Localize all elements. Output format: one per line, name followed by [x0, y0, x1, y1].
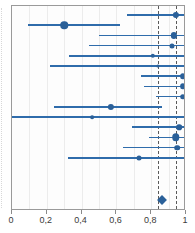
confidence-interval-line [28, 24, 120, 26]
axis-tick [11, 210, 12, 214]
plot-area [11, 5, 185, 210]
point-estimate-marker [170, 43, 175, 48]
confidence-interval-line [69, 55, 185, 57]
x-axis: 00,20,40,60,81 [11, 210, 185, 233]
point-estimate-marker [108, 104, 114, 110]
axis-tick-label: 0,2 [40, 215, 53, 226]
axis-tick-label: 1 [182, 215, 187, 226]
axis-tick-label: 0,4 [74, 215, 87, 226]
point-estimate-marker [180, 73, 185, 79]
axis-tick-label: 0 [8, 215, 13, 226]
gridline [47, 6, 48, 209]
axis-tick [46, 210, 47, 214]
point-estimate-marker [180, 94, 185, 100]
axis-tick [115, 210, 116, 214]
point-estimate-marker [90, 115, 94, 119]
confidence-interval-line [141, 75, 185, 77]
point-estimate-marker [180, 84, 185, 90]
confidence-interval-line [50, 65, 185, 67]
point-estimate-marker [174, 145, 180, 151]
forest-plot-figure: 00,20,40,60,81 [0, 0, 195, 233]
confidence-interval-line [149, 137, 185, 139]
point-estimate-marker [172, 134, 180, 142]
gridline [29, 6, 30, 209]
axis-tick-label: 0,6 [109, 215, 122, 226]
gridline [169, 6, 170, 209]
point-estimate-marker [172, 12, 178, 18]
point-estimate-marker [157, 64, 160, 67]
left-edge-decoration [1, 8, 3, 208]
point-estimate-marker [60, 21, 68, 29]
point-estimate-marker [137, 155, 142, 160]
axis-tick-label: 0,8 [144, 215, 157, 226]
axis-tick [185, 210, 186, 214]
axis-tick [150, 210, 151, 214]
point-estimate-marker [151, 54, 155, 58]
point-estimate-marker [176, 124, 182, 130]
confidence-interval-line [68, 157, 185, 159]
confidence-interval-line [12, 116, 185, 118]
axis-tick [81, 210, 82, 214]
